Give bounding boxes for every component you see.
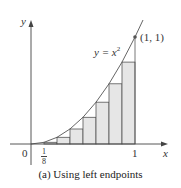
caption: (a) Using left endpoints — [0, 168, 181, 180]
point-label: (1, 1) — [140, 32, 164, 43]
left-endpoint-rectangles — [44, 62, 135, 144]
x-axis-label: x — [163, 148, 168, 159]
origin-label: 0 — [22, 148, 28, 159]
tick-eighth-den: 8 — [42, 158, 46, 166]
y-axis-label: y — [21, 16, 26, 27]
tick-one-label: 1 — [132, 148, 138, 159]
riemann-sum-diagram — [0, 0, 181, 188]
function-label: y = x2 — [94, 46, 120, 58]
tick-eighth-num: 1 — [42, 148, 46, 156]
point-1-1 — [133, 35, 137, 39]
